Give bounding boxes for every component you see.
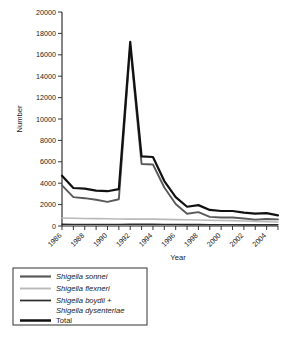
series-line-total <box>62 42 278 215</box>
y-tick-label: 6000 <box>40 157 56 166</box>
series-line-shigella-sonnei <box>62 46 278 219</box>
y-tick-label: 8000 <box>40 136 56 145</box>
x-tick-label: 2000 <box>205 231 223 249</box>
chart-figure: 0200040006000800010000120001400016000180… <box>0 0 293 348</box>
x-tick-label: 2004 <box>250 231 268 249</box>
legend-label-4: Total <box>56 316 72 325</box>
y-tick-label: 16000 <box>36 50 56 59</box>
legend-label-1: Shigella flexneri <box>56 284 110 293</box>
legend-label-3: Shigella dysenteriae <box>56 306 124 315</box>
legend-label-2: Shigella boydii + <box>56 296 112 305</box>
y-tick-label: 18000 <box>36 29 56 38</box>
chart-axes <box>62 12 278 226</box>
y-tick-label: 12000 <box>36 93 56 102</box>
x-tick-label: 1992 <box>114 231 132 249</box>
y-tick-label: 10000 <box>36 115 56 124</box>
series-line-shigella-boydii-shigella-dysenteriae <box>62 224 278 225</box>
y-tick-label: 2000 <box>40 200 56 209</box>
x-axis-title: Year <box>170 253 186 262</box>
x-tick-label: 2002 <box>228 231 246 249</box>
y-axis-title: Number <box>15 105 24 132</box>
y-tick-label: 20000 <box>36 8 56 17</box>
x-tick-label: 1990 <box>91 231 109 249</box>
x-tick-label: 1994 <box>137 231 155 249</box>
legend-label-0: Shigella sonnei <box>56 272 108 281</box>
x-tick-label: 1986 <box>46 231 64 249</box>
y-tick-label: 0 <box>52 222 56 231</box>
x-tick-label: 1988 <box>68 231 86 249</box>
shigella-line-chart: 0200040006000800010000120001400016000180… <box>0 0 293 348</box>
x-tick-label: 1996 <box>159 231 177 249</box>
x-tick-label: 1998 <box>182 231 200 249</box>
y-tick-label: 4000 <box>40 179 56 188</box>
y-tick-label: 14000 <box>36 72 56 81</box>
